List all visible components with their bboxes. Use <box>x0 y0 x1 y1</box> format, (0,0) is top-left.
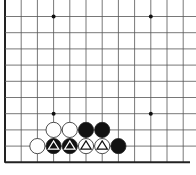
star-point-icon <box>52 112 56 116</box>
white-stone-icon <box>46 122 61 137</box>
white-stone-icon <box>30 139 45 154</box>
star-point-icon <box>52 15 56 19</box>
star-point-icon <box>149 112 153 116</box>
star-point-icon <box>149 15 153 19</box>
black-stone-icon <box>111 139 126 154</box>
black-stone-icon <box>95 122 110 137</box>
black-stone-icon <box>78 122 93 137</box>
go-board <box>0 0 196 175</box>
white-stone-icon <box>62 122 77 137</box>
stones <box>30 122 126 153</box>
